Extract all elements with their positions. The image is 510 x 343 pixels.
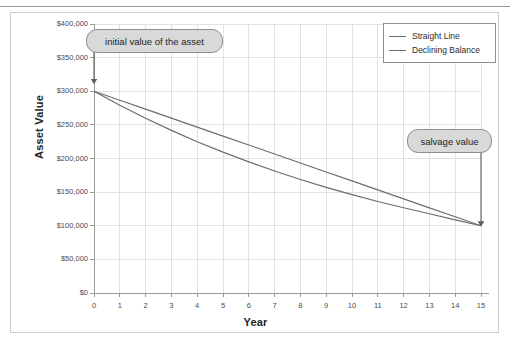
initial-value-callout[interactable]: initial value of the asset: [86, 29, 223, 53]
salvage-value-callout-label: salvage value: [420, 136, 478, 147]
y-tick-label: $350,000: [57, 53, 88, 62]
salvage-value-callout[interactable]: salvage value: [407, 129, 492, 153]
x-tick-label: 5: [213, 301, 233, 310]
x-tick-label: 4: [187, 301, 207, 310]
x-tick-label: 9: [316, 301, 336, 310]
x-tick-label: 0: [84, 301, 104, 310]
x-axis-title: Year: [11, 316, 500, 328]
y-tick-label: $150,000: [57, 187, 88, 196]
y-tick-label: $50,000: [61, 254, 88, 263]
y-axis-title: Asset Value: [33, 72, 45, 182]
y-tick-label: $250,000: [57, 120, 88, 129]
x-tick-label: 13: [419, 301, 439, 310]
legend-item-straight-line[interactable]: Straight Line: [389, 29, 489, 43]
legend-item-declining-balance[interactable]: Declining Balance: [389, 43, 489, 57]
y-tick-label: $200,000: [57, 154, 88, 163]
x-tick-label: 6: [239, 301, 259, 310]
x-tick-label: 1: [110, 301, 130, 310]
legend-swatch-icon: [389, 36, 406, 37]
y-tick-label: $400,000: [57, 19, 88, 28]
y-tick-label: $0: [80, 288, 88, 297]
x-tick-label: 10: [342, 301, 362, 310]
chart-legend[interactable]: Straight Line Declining Balance: [383, 23, 496, 63]
initial-value-callout-label: initial value of the asset: [105, 36, 204, 47]
x-tick-label: 15: [471, 301, 491, 310]
document-top-strip: [0, 0, 510, 7]
x-tick-label: 11: [368, 301, 388, 310]
x-tick-label: 3: [161, 301, 181, 310]
x-tick-label: 14: [445, 301, 465, 310]
legend-label-straight-line: Straight Line: [412, 31, 460, 41]
x-tick-label: 8: [290, 301, 310, 310]
x-tick-label: 7: [265, 301, 285, 310]
legend-label-declining-balance: Declining Balance: [412, 45, 480, 55]
x-tick-label: 2: [136, 301, 156, 310]
chart-figure-frame: Asset Value Year $0$50,000$100,000$150,0…: [10, 12, 499, 333]
y-tick-label: $100,000: [57, 221, 88, 230]
legend-swatch-icon: [389, 50, 406, 51]
y-tick-label: $300,000: [57, 86, 88, 95]
tick-marks: [90, 24, 481, 297]
x-tick-label: 12: [394, 301, 414, 310]
screenshot-root: Asset Value Year $0$50,000$100,000$150,0…: [0, 0, 510, 343]
